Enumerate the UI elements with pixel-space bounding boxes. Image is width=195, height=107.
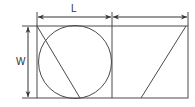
label-length: L — [71, 4, 77, 14]
left-diagonal — [37, 26, 80, 98]
inscribed-circle — [39, 26, 112, 99]
label-width: W — [16, 57, 25, 67]
rectangle-division-diagram — [0, 0, 195, 107]
right-diagonal — [141, 26, 186, 98]
